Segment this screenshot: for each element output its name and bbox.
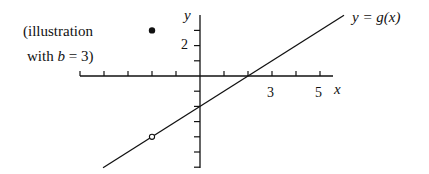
open-point xyxy=(149,134,154,139)
x-axis-label: x xyxy=(333,81,341,97)
points xyxy=(149,27,155,139)
lines xyxy=(103,15,344,168)
note-line-1: (illustration xyxy=(23,23,93,40)
chart: x y 3 5 2 y = g(x) (illustration with b … xyxy=(0,0,429,174)
filled-point xyxy=(149,27,155,33)
y-tick-label-2: 2 xyxy=(181,37,188,52)
note-suffix: = 3) xyxy=(65,48,93,65)
axes xyxy=(80,15,333,168)
series-line-g xyxy=(103,15,344,168)
x-tick-label-3: 3 xyxy=(267,85,274,100)
x-tick-label-5: 5 xyxy=(315,85,322,100)
curve-label: y = g(x) xyxy=(350,9,400,26)
note-line-2: with b = 3) xyxy=(27,48,93,65)
y-axis-label: y xyxy=(182,7,191,23)
note-prefix: with xyxy=(27,48,57,64)
